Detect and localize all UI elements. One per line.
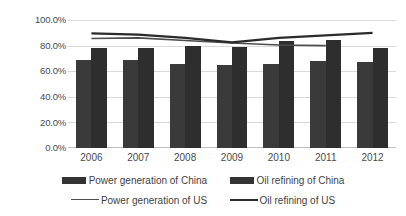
y-tick-label-80: 80.0% [4,41,66,51]
plot-area [68,20,396,148]
chart-container: 100.0% 80.0% 60.0% 40.0% 20.0% 0.0% 2006… [0,0,406,216]
legend-label: Oil refining of China [257,175,345,186]
line-swatch-icon [230,199,258,201]
y-tick-label-60: 60.0% [4,66,66,76]
legend-label: Oil refining of US [260,195,336,206]
x-tick-label-2006: 2006 [68,152,115,163]
lines-layer [68,20,396,148]
legend-row-bars: Power generation of China Oil refining o… [0,170,406,189]
legend-item-power-generation-of-china[interactable]: Power generation of China [62,171,207,189]
y-tick-label-20: 20.0% [4,118,66,128]
legend-row-lines: Power generation of US Oil refining of U… [0,190,406,209]
x-tick-label-2009: 2009 [209,152,256,163]
x-tick-label-2008: 2008 [162,152,209,163]
legend-label: Power generation of US [101,195,207,206]
bar-swatch-icon [230,177,254,184]
legend-item-oil-refining-of-us[interactable]: Oil refining of US [230,191,336,209]
x-tick-label-2011: 2011 [302,152,349,163]
y-tick-label-100: 100.0% [4,15,66,25]
y-tick-label-0: 0.0% [4,143,66,153]
y-tick-label-40: 40.0% [4,92,66,102]
line-swatch-icon [71,199,99,200]
x-tick-label-2012: 2012 [349,152,396,163]
legend-item-oil-refining-of-china[interactable]: Oil refining of China [230,171,345,189]
bar-swatch-icon [62,177,86,184]
x-tick-label-2010: 2010 [255,152,302,163]
legend-item-power-generation-of-us[interactable]: Power generation of US [71,191,207,209]
x-tick-label-2007: 2007 [115,152,162,163]
legend-label: Power generation of China [89,175,207,186]
